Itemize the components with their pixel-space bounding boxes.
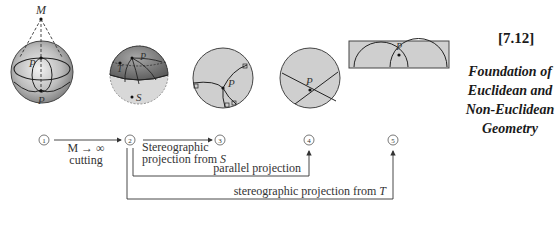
book-title-line: Foundation of	[464, 62, 555, 81]
book-title-line: Non-Euclidean	[464, 100, 555, 119]
svg-text:4: 4	[307, 137, 311, 145]
stage-number-3: 3	[215, 135, 225, 145]
arrow-1-to-2: M → ∞ cutting	[54, 140, 121, 167]
point-label-P: P	[139, 51, 146, 62]
stage-2-hemisphere: T P S	[110, 46, 168, 104]
point-label-P: P	[305, 75, 313, 87]
stage-number-4: 4	[304, 135, 314, 145]
point-label-P-top: P	[28, 57, 36, 69]
stage-number-5: 5	[388, 135, 398, 145]
arrow-3-label: parallel projection	[213, 161, 301, 175]
book-title: Foundation of Euclidean and Non-Euclidea…	[464, 62, 555, 138]
arrow-4-label: stereographic projection from T	[234, 184, 388, 198]
stage-4-disk: P	[280, 48, 340, 108]
svg-text:5: 5	[391, 137, 395, 145]
point-label-S: S	[136, 91, 142, 103]
point-label-P-bottom: P	[37, 94, 45, 106]
svg-text:1: 1	[42, 137, 46, 145]
stage-number-2: 2	[125, 135, 135, 145]
point-label-P: P	[395, 41, 402, 52]
stage-5-half-plane: P	[349, 39, 449, 68]
svg-text:3: 3	[218, 137, 222, 145]
point-label-M: M	[35, 3, 47, 17]
stage-1-sphere: M P P	[11, 3, 73, 106]
point-label-P: P	[227, 77, 235, 89]
svg-text:2: 2	[128, 137, 132, 145]
figure-number: [7.12]	[498, 30, 534, 47]
book-title-line: Geometry	[464, 119, 555, 138]
book-title-line: Euclidean and	[464, 81, 555, 100]
arrow-1-label-bottom: cutting	[69, 153, 102, 167]
stage-number-1: 1	[39, 135, 49, 145]
stage-3-disk: P	[193, 48, 253, 108]
